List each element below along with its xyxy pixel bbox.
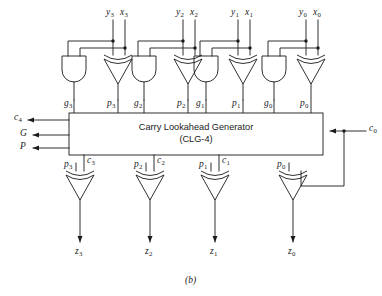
signal-label-c3: c3 xyxy=(87,156,95,166)
input-label-x2: x2 xyxy=(190,8,198,18)
signal-label-p2-lower: p2 xyxy=(134,160,142,170)
figure-carry-lookahead-adder: y3 x3 y2 x2 y1 x1 y0 x0 g3 g2 g1 g0 p3 p… xyxy=(0,0,382,296)
input-label-y1: y1 xyxy=(231,8,239,18)
input-group-0-wires xyxy=(268,20,320,56)
signal-label-c1: c1 xyxy=(222,156,230,166)
output-label-z0: z0 xyxy=(288,247,295,257)
gp-input-wires-to-block xyxy=(74,100,274,113)
xor-gate-p2 xyxy=(174,55,202,100)
signal-label-p1-lower: p1 xyxy=(199,160,207,170)
input-label-y0: y0 xyxy=(299,8,307,18)
signal-label-g2: g2 xyxy=(134,99,142,109)
signal-label-g0: g0 xyxy=(264,99,272,109)
input-label-y2: y2 xyxy=(176,8,184,18)
and-gate-g0 xyxy=(262,56,286,100)
signal-label-p3: p3 xyxy=(107,99,115,109)
carry-out-wires xyxy=(76,155,289,171)
signal-label-p0-lower: p0 xyxy=(277,160,285,170)
circuit-schematic xyxy=(0,0,382,296)
signal-label-p1: p1 xyxy=(232,99,240,109)
input-label-y3: y3 xyxy=(106,8,114,18)
output-label-G: G xyxy=(20,129,27,139)
clg-block-title-line1: Carry Lookahead Generator xyxy=(69,122,323,134)
output-label-c4: c4 xyxy=(14,113,22,123)
and-gate-g1 xyxy=(194,56,218,100)
xor-gate-p3 xyxy=(104,55,132,100)
input-label-x0: x0 xyxy=(313,8,321,18)
input-label-x3: x3 xyxy=(120,8,128,18)
signal-label-g1: g1 xyxy=(196,99,204,109)
signal-label-c2: c2 xyxy=(157,156,165,166)
figure-caption: (b) xyxy=(185,275,196,285)
xor-gate-p1 xyxy=(229,55,257,100)
input-group-3-wires xyxy=(68,20,127,56)
xor-gate-z1 xyxy=(201,171,229,242)
output-label-z1: z1 xyxy=(210,247,217,257)
input-group-1-wires xyxy=(200,20,252,56)
signal-label-g3: g3 xyxy=(64,99,72,109)
signal-label-p3-lower: p3 xyxy=(64,160,72,170)
xor-gate-z3 xyxy=(66,171,94,242)
xor-gate-z2 xyxy=(136,171,164,242)
xor-gate-z0 xyxy=(279,171,307,242)
signal-label-p2: p2 xyxy=(177,99,185,109)
input-label-c0: c0 xyxy=(369,124,377,134)
input-label-x1: x1 xyxy=(245,8,253,18)
output-label-z2: z2 xyxy=(145,247,152,257)
signal-label-p0: p0 xyxy=(300,99,308,109)
and-gate-g3 xyxy=(62,56,86,100)
clg-block-title: Carry Lookahead Generator (CLG-4) xyxy=(69,122,323,145)
output-label-z3: z3 xyxy=(75,247,82,257)
output-label-P: P xyxy=(20,142,26,152)
input-group-2-wires xyxy=(138,20,197,56)
and-gate-g2 xyxy=(132,56,156,100)
clg-block-title-line2: (CLG-4) xyxy=(69,134,323,146)
block-left-outputs xyxy=(28,120,69,148)
